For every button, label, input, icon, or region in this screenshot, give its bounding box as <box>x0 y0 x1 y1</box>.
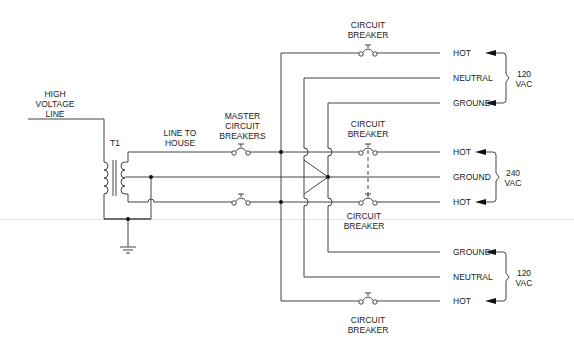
master-breaker-1 <box>232 144 250 155</box>
label-line: BREAKER <box>339 221 389 231</box>
secondary-coil <box>121 162 125 194</box>
voltage-label-middle: 240 VAC <box>501 168 525 188</box>
breaker-bottom <box>359 293 377 304</box>
label-line: BREAKER <box>343 325 393 335</box>
conductor-ground-bottom: GROUND <box>453 247 491 257</box>
voltage-label-bottom: 120 VAC <box>512 268 536 288</box>
bracket-bottom <box>496 252 509 301</box>
conductor-hot-bottom: HOT <box>453 296 471 306</box>
label-line: VOLTAGE <box>30 99 80 109</box>
breaker-label-middle-bottom: CIRCUIT BREAKER <box>339 211 389 231</box>
line-to-house-label: LINE TO HOUSE <box>155 128 205 148</box>
label-line: 120 <box>512 268 536 278</box>
high-voltage-wire <box>28 119 104 162</box>
label-line: LINE <box>30 109 80 119</box>
conductor-hot-middle-2: HOT <box>453 197 471 207</box>
label-line: 120 <box>512 69 536 79</box>
breaker-label-top: CIRCUIT BREAKER <box>343 20 393 40</box>
master-breakers-label: MASTER CIRCUIT BREAKERS <box>215 111 270 141</box>
label-line: BREAKER <box>343 129 393 139</box>
breaker-top <box>359 45 377 56</box>
breaker-label-middle-top: CIRCUIT BREAKER <box>343 119 393 139</box>
label-line: BREAKERS <box>215 131 270 141</box>
label-line: BREAKER <box>343 30 393 40</box>
conductor-hot-middle-1: HOT <box>453 147 471 157</box>
label-line: MASTER <box>215 111 270 121</box>
label-line: CIRCUIT <box>215 121 270 131</box>
high-voltage-line-label: HIGH VOLTAGE LINE <box>30 89 80 119</box>
label-line: CIRCUIT <box>343 315 393 325</box>
label-line: HOUSE <box>155 138 205 148</box>
breaker-middle-2 <box>359 194 377 205</box>
label-line: VAC <box>512 278 536 288</box>
primary-coil <box>104 162 108 194</box>
label-line: VAC <box>501 178 525 188</box>
conductor-neutral-top: NEUTRAL <box>453 73 493 83</box>
label-line: CIRCUIT <box>343 20 393 30</box>
transformer-label: T1 <box>105 138 125 148</box>
conductor-ground-top: GROUND <box>453 98 491 108</box>
bracket-top <box>496 53 509 103</box>
label-line: VAC <box>512 79 536 89</box>
label-line: CIRCUIT <box>339 211 389 221</box>
label-line: CIRCUIT <box>343 119 393 129</box>
conductor-hot-top: HOT <box>453 48 471 58</box>
label-line: 240 <box>501 168 525 178</box>
master-breaker-2 <box>232 194 250 205</box>
conductor-ground-middle: GROUND <box>453 172 491 182</box>
breaker-label-bottom: CIRCUIT BREAKER <box>343 315 393 335</box>
label-line: LINE TO <box>155 128 205 138</box>
voltage-label-top: 120 VAC <box>512 69 536 89</box>
label-line: HIGH <box>30 89 80 99</box>
conductor-neutral-bottom: NEUTRAL <box>453 272 493 282</box>
